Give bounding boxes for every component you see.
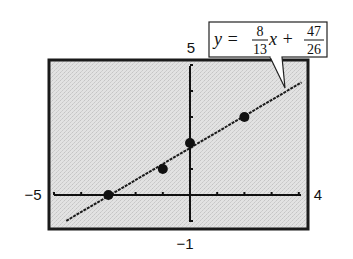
data-point [158, 164, 168, 174]
equation-lhs: y = [212, 29, 239, 49]
equation-variable: x + [268, 29, 294, 49]
x-max-label: 4 [314, 186, 322, 203]
y-min-label: −1 [176, 235, 193, 252]
intercept-denominator: 26 [307, 42, 321, 57]
data-point [103, 190, 113, 200]
x-min-label: −5 [24, 186, 41, 203]
plot-frame [49, 60, 308, 229]
y-max-label: 5 [187, 39, 195, 56]
chart: 5 −1 −5 4 y = 8 13 x + 47 26 [0, 0, 353, 259]
data-point [239, 112, 249, 122]
slope-denominator: 13 [253, 42, 267, 57]
slope-numerator: 8 [257, 24, 264, 39]
data-point [185, 138, 195, 148]
intercept-numerator: 47 [307, 24, 321, 39]
